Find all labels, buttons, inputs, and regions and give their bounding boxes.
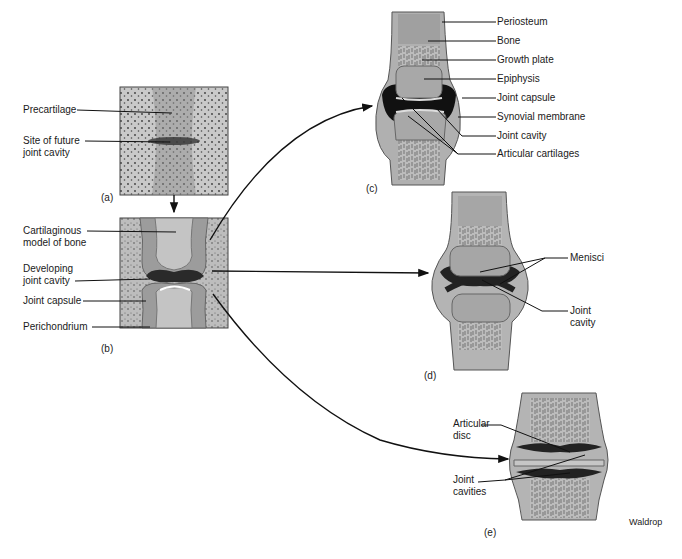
label-developing: Developing <box>23 263 73 275</box>
panel-b-cartilaginous-model <box>120 218 228 328</box>
label-bone: Bone <box>497 35 520 47</box>
arrow-b-to-c <box>210 106 372 240</box>
label-site-of-future: Site of future <box>23 135 80 147</box>
panel-letter-c: (c) <box>366 183 378 194</box>
label-cavities: cavities <box>453 486 486 498</box>
label-cavity-d: cavity <box>570 317 596 329</box>
label-joint-cavity-a: joint cavity <box>23 147 70 159</box>
label-joint-capsule-c: Joint capsule <box>497 92 555 104</box>
panel-letter-d: (d) <box>424 370 436 381</box>
panel-d-joint-with-menisci <box>432 192 528 370</box>
label-joint-e: Joint <box>453 474 474 486</box>
panel-c-synovial-joint <box>376 12 461 185</box>
arrow-b-to-d <box>212 271 428 273</box>
panel-letter-e: (e) <box>484 527 496 538</box>
label-synovial-membrane: Synovial membrane <box>497 111 585 123</box>
label-menisci: Menisci <box>570 252 604 264</box>
panel-e-joint-with-articular-disc <box>509 393 608 520</box>
panel-letter-b: (b) <box>101 343 113 354</box>
panel-a-precartilage <box>120 87 228 195</box>
label-joint-d: Joint <box>570 305 591 317</box>
label-growth-plate: Growth plate <box>497 54 554 66</box>
joint-development-figure: Precartilage Site of future joint cavity… <box>0 0 682 559</box>
panel-letter-a: (a) <box>101 192 113 203</box>
illustrator-credit: Waldrop <box>629 516 662 528</box>
label-disc: disc <box>453 430 471 442</box>
label-cartilaginous: Cartilaginous <box>23 225 81 237</box>
label-articular-cartilages: Articular cartilages <box>497 148 579 160</box>
label-precartilage: Precartilage <box>23 104 76 116</box>
label-joint-cavity-b: joint cavity <box>23 275 70 287</box>
label-model-of-bone: model of bone <box>23 237 86 249</box>
label-articular: Articular <box>453 418 490 430</box>
label-periosteum: Periosteum <box>497 16 548 28</box>
label-epiphysis: Epiphysis <box>497 73 540 85</box>
label-joint-capsule-b: Joint capsule <box>23 295 81 307</box>
label-joint-cavity-c: Joint cavity <box>497 130 546 142</box>
label-perichondrium: Perichondrium <box>23 321 87 333</box>
